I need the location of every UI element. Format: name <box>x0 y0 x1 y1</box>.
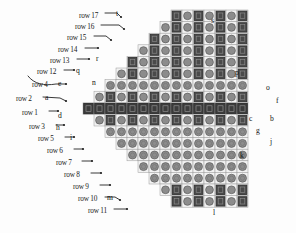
lattice-row-8 <box>94 91 248 103</box>
cell-label-cell-c: c <box>249 114 252 123</box>
row-label-row-10: row 10 <box>78 194 97 203</box>
lattice-row-13 <box>127 149 248 161</box>
lattice-row-4 <box>138 45 248 57</box>
leader-row15 <box>94 36 111 40</box>
row-label-row-17: row 17 <box>79 11 98 20</box>
lattice-row-1 <box>171 10 248 22</box>
cell-label-cell-d: d <box>58 111 62 120</box>
row-label-row-7: row 7 <box>56 158 72 167</box>
lattice-row-6 <box>116 68 248 80</box>
lattice-row-9 <box>83 103 248 115</box>
row-label-row-4: row 4 <box>32 80 48 89</box>
cell-label-cell-p: p <box>235 68 239 77</box>
row-label-row-3: row 3 <box>29 122 45 131</box>
cell-label-cell-a: a <box>45 93 48 102</box>
leader-row4-arrowhead <box>65 83 67 85</box>
leader-row11-arrowhead <box>126 208 128 210</box>
leader-row10-arrowhead <box>119 199 121 201</box>
leader-row5-arrowhead <box>73 136 75 138</box>
lattice-row-11 <box>105 126 248 138</box>
figure-canvas: row 17row 16row 15row 14row 13row 12row … <box>0 0 296 233</box>
cell-label-cell-b: b <box>270 114 274 123</box>
cell-label-cell-j: j <box>270 137 272 146</box>
cell-label-cell-i: i <box>70 133 72 142</box>
lattice-row-16 <box>160 184 248 196</box>
leader-row9-arrowhead <box>109 184 111 186</box>
row-label-row-1: row 1 <box>22 108 38 117</box>
lattice-row-17 <box>171 196 248 208</box>
row-label-row-14: row 14 <box>58 45 77 54</box>
lattice-row-7 <box>105 80 248 92</box>
cell-label-cell-e: e <box>58 79 61 88</box>
leader-row16-arrowhead <box>123 28 125 30</box>
cell-label-cell-l: l <box>213 208 215 217</box>
lattice-row-15 <box>149 172 248 184</box>
row-label-row-2: row 2 <box>16 94 32 103</box>
leader-row13-arrowhead <box>88 58 90 60</box>
row-label-row-12: row 12 <box>37 67 56 76</box>
cell-label-cell-k: k <box>240 151 244 160</box>
leader-row2-arrowhead <box>65 100 67 102</box>
leader-row15-arrowhead <box>110 39 112 41</box>
leader-row3-arrowhead <box>63 124 65 126</box>
lattice-row-10 <box>94 114 248 126</box>
cell-label-cell-n: n <box>92 78 96 87</box>
row-label-row-11: row 11 <box>88 206 107 215</box>
leader-row7-arrowhead <box>91 160 93 162</box>
row-label-row-16: row 16 <box>75 22 94 31</box>
cell-label-cell-h: h <box>56 123 60 132</box>
lattice-row-2 <box>160 22 248 34</box>
row-label-row-15: row 15 <box>67 33 86 42</box>
row-label-row-8: row 8 <box>64 170 80 179</box>
leader-row17 <box>105 13 121 17</box>
lattice-row-5 <box>127 56 248 68</box>
cell-label-cell-s: s <box>211 16 214 25</box>
row-label-row-6: row 6 <box>47 146 63 155</box>
cell-label-cell-q: q <box>76 66 80 75</box>
cell-label-cell-o: o <box>266 83 270 92</box>
lattice-row-12 <box>116 138 248 150</box>
lattice-row-3 <box>149 33 248 45</box>
leader-row16 <box>101 25 124 29</box>
row-label-row-9: row 9 <box>73 182 89 191</box>
leader-row6-arrowhead <box>82 148 84 150</box>
leader-row14-arrowhead <box>97 47 99 49</box>
row-label-row-5: row 5 <box>38 134 54 143</box>
cell-label-cell-t: t <box>116 9 118 18</box>
leader-row12-arrowhead <box>73 69 75 71</box>
lattice-row-14 <box>138 161 248 173</box>
row-label-row-13: row 13 <box>50 56 69 65</box>
cell-label-cell-g: g <box>256 126 260 135</box>
leader-row8-arrowhead <box>100 172 102 174</box>
cell-label-cell-m: m <box>107 193 113 202</box>
leader-row17-arrowhead <box>120 16 122 18</box>
cell-label-cell-r: r <box>96 54 99 63</box>
cell-label-cell-f: f <box>276 96 279 105</box>
